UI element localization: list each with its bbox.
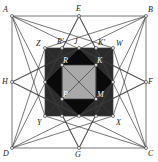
vertex-node xyxy=(112,115,115,118)
vertex-node xyxy=(112,81,115,84)
vertex-label-E: E xyxy=(76,5,81,13)
vertex-label-X: X xyxy=(116,119,121,127)
vertex-label-W: W xyxy=(116,40,123,48)
vertex-label-F: F xyxy=(148,78,153,86)
geometry-canvas xyxy=(0,0,158,162)
geometry-figure: A B C D E F G H Z W X Y J R' K' R K M P xyxy=(0,0,158,162)
vertex-node xyxy=(61,47,64,50)
vertex-node xyxy=(11,147,14,150)
vertex-node xyxy=(78,15,81,18)
vertex-node xyxy=(11,81,14,84)
vertex-label-M: M xyxy=(97,91,104,99)
vertex-node xyxy=(61,115,64,118)
vertex-label-R: R xyxy=(63,57,68,65)
vertex-label-H: H xyxy=(2,78,8,86)
vertex-node xyxy=(78,47,81,50)
vertex-node xyxy=(11,15,14,18)
vertex-label-C: C xyxy=(148,150,153,158)
vertex-label-P: P xyxy=(63,91,68,99)
vertex-node xyxy=(112,47,115,50)
vertex-label-G: G xyxy=(75,151,81,159)
vertex-node xyxy=(44,115,47,118)
vertex-label-D: D xyxy=(3,150,9,158)
vertex-label-A: A xyxy=(3,6,8,14)
vertex-label-Z: Z xyxy=(36,40,40,48)
vertex-node xyxy=(145,15,148,18)
vertex-label-K: K xyxy=(97,57,102,65)
vertex-label-J: J xyxy=(74,38,78,46)
vertex-node xyxy=(44,81,47,84)
vertex-node xyxy=(95,115,98,118)
vertex-label-R-prime: R' xyxy=(57,38,64,46)
vertex-label-K-prime: K' xyxy=(98,39,105,47)
vertex-node xyxy=(78,115,81,118)
vertex-label-Y: Y xyxy=(37,119,41,127)
vertex-node xyxy=(44,47,47,50)
vertex-label-B: B xyxy=(148,6,153,14)
